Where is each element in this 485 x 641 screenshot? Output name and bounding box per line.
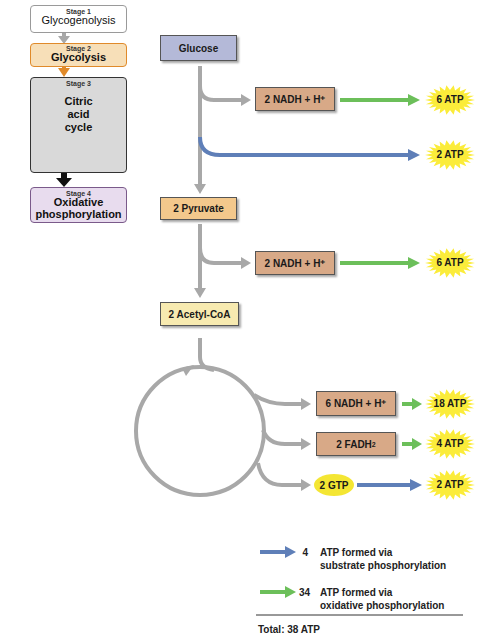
legend-substrate-text: ATP formed via substrate phosphorylation (320, 546, 446, 572)
stage-3-name-line-2: acid (31, 108, 126, 121)
gtp-oval: 2 GTP (314, 474, 354, 496)
atp-burst-cycle-fadh2: 4 ATP (420, 438, 480, 449)
stage-1-name: Glycogenolysis (31, 15, 126, 27)
stage-1-box: Stage 1 Glycogenolysis (30, 5, 127, 33)
stage-4-box: Stage 4 Oxidative phosphorylation (30, 187, 127, 223)
pyruvate-box: 2 Pyruvate (160, 197, 237, 220)
glucose-box: Glucose (160, 35, 237, 61)
fadh2-box: 2 FADH2 (316, 432, 396, 456)
nadh-box-glycolysis: 2 NADH + H⁺ (255, 87, 335, 111)
legend-oxidative-text: ATP formed via oxidative phosphorylation (320, 586, 444, 612)
legend-substrate-line1: ATP formed via (320, 546, 446, 559)
citric-acid-cycle-loop (136, 338, 311, 495)
legend-substrate-line2: substrate phosphorylation (320, 559, 446, 572)
stage-3-box: Stage 3 Citric acid cycle (30, 77, 127, 173)
atp-burst-cycle-gtp: 2 ATP (420, 479, 480, 490)
pyruvate-to-nadh-branch (200, 248, 251, 269)
legend-oxidative-line1: ATP formed via (320, 586, 444, 599)
glucose-substrate-atp-arrow (200, 137, 420, 161)
nadh3-to-atp-arrow (402, 398, 422, 410)
stage-4-name-line-2: phosphorylation (31, 209, 126, 221)
stage-2-box: Stage 2 Glycolysis (30, 43, 127, 67)
nadh-box-pyruvate: 2 NADH + H⁺ (255, 251, 335, 275)
fadh2-to-atp-arrow (402, 438, 422, 450)
gtp-to-atp-arrow (357, 479, 422, 491)
atp-burst-glycolysis-substrate: 2 ATP (420, 149, 480, 160)
glucose-to-nadh-branch (200, 86, 251, 106)
stage-3-name-line-1: Citric (31, 95, 126, 108)
legend-substrate-count: 4 (296, 546, 308, 559)
stage-3-name-line-3: cycle (31, 121, 126, 134)
stage-connector-3-4 (56, 173, 72, 187)
nadh-box-cycle: 6 NADH + H⁺ (316, 391, 396, 416)
legend-oxidative-arrow (260, 586, 296, 598)
atp-burst-cycle-nadh: 18 ATP (420, 398, 480, 409)
nadh1-to-atp-arrow (340, 94, 420, 106)
legend-total: Total: 38 ATP (258, 623, 320, 636)
atp-burst-pyruvate-nadh: 6 ATP (420, 257, 480, 268)
legend-substrate-arrow (260, 546, 296, 558)
fadh2-subscript: 2 (372, 441, 376, 448)
legend-oxidative-line2: oxidative phosphorylation (320, 599, 444, 612)
fadh2-label: 2 FADH (336, 439, 372, 450)
glucose-to-pyruvate-arrow (194, 66, 206, 194)
acetyl-coa-box: 2 Acetyl-CoA (160, 302, 239, 326)
legend-oxidative-count: 34 (296, 586, 310, 599)
atp-burst-glycolysis-nadh: 6 ATP (420, 94, 480, 105)
stage-3-label: Stage 3 (31, 78, 126, 87)
stage-2-name: Glycolysis (31, 52, 126, 64)
nadh2-to-atp-arrow (340, 257, 420, 269)
